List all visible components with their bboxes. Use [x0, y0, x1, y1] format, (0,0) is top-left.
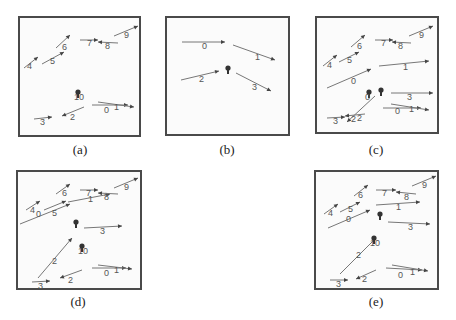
track-label: 0: [398, 270, 403, 280]
track-label: 6: [62, 42, 67, 52]
arrowhead-icon: [424, 268, 428, 272]
track-arrow: 6: [56, 184, 70, 198]
panel-c: 456789013012230: [315, 16, 439, 134]
track-label: 3: [100, 226, 105, 236]
track-arrow: 4: [323, 55, 337, 70]
track-label: 8: [104, 192, 109, 202]
arrowhead-icon: [344, 278, 348, 282]
person-marker-icon: [73, 219, 78, 228]
track-arrow: 7: [80, 38, 98, 48]
track-label: 4: [327, 60, 332, 70]
track-label: 5: [348, 204, 353, 214]
track-label: 6: [358, 190, 363, 200]
arrowhead-icon: [341, 115, 345, 119]
track-label: 9: [422, 180, 427, 190]
person-marker-icon: 10: [370, 235, 380, 248]
track-label: 9: [419, 30, 424, 40]
track-label: 7: [381, 38, 386, 48]
track-arrow: 5: [340, 202, 360, 214]
track-arrow: 6: [56, 35, 70, 52]
track-label: 7: [86, 188, 91, 198]
track-arrow: 1: [379, 59, 429, 72]
trajectory-plot: 4056178932012310: [18, 172, 140, 288]
track-label: 9: [124, 30, 129, 40]
arrowhead-icon: [94, 38, 98, 42]
track-label: 2: [199, 74, 204, 84]
arrowhead-icon: [425, 107, 429, 111]
arrowhead-icon: [221, 40, 225, 44]
track-label: 3: [336, 279, 341, 289]
trajectory-plot: 0123: [167, 18, 288, 134]
track-arrow: 2: [62, 107, 84, 122]
track-label: 3: [40, 117, 45, 127]
arrowhead-icon: [392, 40, 396, 44]
track-label: 8: [398, 41, 403, 51]
arrowhead-icon: [429, 91, 433, 95]
track-label: 1: [403, 62, 408, 72]
person-marker-icon: [378, 87, 383, 96]
track-arrow: 9: [114, 26, 138, 40]
track-label: 2: [356, 250, 361, 260]
svg-text:10: 10: [74, 92, 84, 102]
track-label: 4: [328, 208, 333, 218]
track-arrow: 8: [392, 40, 411, 51]
track-arrow: 1: [233, 45, 275, 62]
panel-a: 456789012310: [18, 16, 141, 137]
panel-caption-b: (b): [207, 142, 247, 158]
arrowhead-icon: [98, 191, 102, 195]
track-arrow: 5: [44, 201, 66, 218]
track-label: 2: [362, 274, 367, 284]
arrowhead-icon: [389, 38, 393, 42]
panel-caption-a: (a): [60, 142, 100, 158]
track-label: 1: [409, 104, 414, 114]
track-label: 0: [104, 268, 109, 278]
arrowhead-icon: [94, 188, 98, 192]
track-label: 6: [62, 188, 67, 198]
track-arrow: 3: [330, 278, 348, 289]
track-arrow: 8: [98, 40, 118, 51]
track-arrow: 3: [32, 279, 50, 291]
track-label: 1: [410, 267, 415, 277]
track-arrow: 0: [386, 268, 422, 280]
panel-caption-d: (d): [58, 294, 98, 310]
track-arrow: 0: [327, 69, 371, 88]
track-label: 1: [114, 265, 119, 275]
track-arrow: 0: [182, 40, 225, 51]
track-label: 5: [50, 56, 55, 66]
person-marker-icon: [377, 211, 382, 220]
track-label: 0: [351, 76, 356, 86]
track-arrow: 1: [376, 200, 420, 212]
track-label: 3: [38, 281, 43, 291]
track-label: 9: [124, 182, 129, 192]
track-label: 4: [30, 205, 35, 215]
track-arrow: 9: [412, 176, 436, 190]
track-label: 2: [52, 256, 57, 266]
track-label: 2: [70, 112, 75, 122]
track-arrow: 5: [339, 52, 359, 65]
panel-caption-c: (c): [356, 142, 396, 158]
track-label: 5: [347, 55, 352, 65]
track-arrow: 3: [327, 115, 345, 126]
arrowhead-icon: [426, 222, 430, 226]
track-arrow: 0: [92, 103, 128, 115]
track-arrow: 9: [409, 26, 433, 40]
trajectory-plot: 456789013012230: [317, 18, 437, 132]
svg-text:0: 0: [365, 92, 370, 102]
person-marker-icon: 10: [78, 243, 88, 256]
track-arrow: 6: [354, 185, 368, 200]
arrowhead-icon: [46, 279, 50, 283]
track-arrow: 2: [60, 270, 82, 285]
track-arrow: 6: [351, 35, 365, 51]
arrowhead-icon: [215, 70, 219, 74]
track-arrow: 7: [376, 188, 396, 198]
track-arrow: 3: [388, 222, 430, 232]
track-label: 3: [407, 92, 412, 102]
track-arrow: 3: [236, 73, 271, 92]
track-label: 7: [382, 188, 387, 198]
track-arrow: 3: [391, 91, 433, 102]
track-label: 3: [333, 116, 338, 126]
track-arrow: 2: [181, 70, 219, 84]
track-label: 1: [396, 202, 401, 212]
arrowhead-icon: [98, 40, 102, 44]
track-arrow: 4: [24, 57, 38, 71]
